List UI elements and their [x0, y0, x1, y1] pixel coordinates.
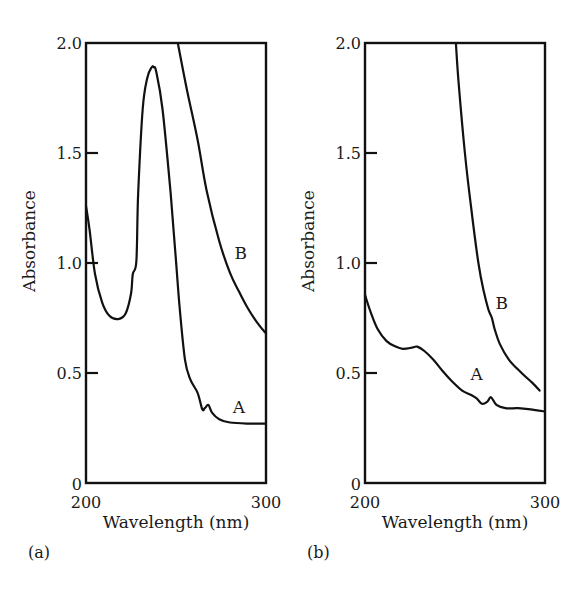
panel-label: (a) — [28, 543, 50, 562]
panel-b: 00.51.01.52.0200300Wavelength (nm)Absorb… — [298, 34, 560, 562]
curve-a — [365, 295, 545, 412]
y-tick-label: 1.0 — [336, 254, 361, 273]
chart-canvas: 00.51.01.52.0200300Wavelength (nm)Absorb… — [0, 0, 588, 601]
panel-label: (b) — [307, 543, 330, 562]
y-tick-label: 0 — [351, 475, 361, 494]
plot-frame — [365, 43, 545, 483]
x-tick-label: 200 — [71, 493, 102, 512]
x-axis-label: Wavelength (nm) — [103, 512, 250, 532]
y-tick-label: 2.0 — [336, 34, 361, 53]
panel-a: 00.51.01.52.0200300Wavelength (nm)Absorb… — [19, 34, 281, 562]
y-axis-label: Absorbance — [298, 190, 318, 293]
curve-label-b: B — [235, 243, 248, 263]
curve-label-a: A — [232, 397, 246, 417]
curve-b — [456, 43, 540, 391]
x-tick-label: 300 — [530, 493, 561, 512]
y-tick-label: 2.0 — [57, 34, 82, 53]
y-tick-label: 0 — [72, 475, 82, 494]
y-tick-label: 1.5 — [57, 144, 82, 163]
curve-b — [178, 43, 266, 333]
x-tick-label: 200 — [350, 493, 381, 512]
absorbance-figure: 00.51.01.52.0200300Wavelength (nm)Absorb… — [0, 0, 588, 601]
y-tick-label: 1.5 — [336, 144, 361, 163]
y-tick-label: 0.5 — [336, 364, 361, 383]
y-tick-label: 1.0 — [57, 254, 82, 273]
y-axis-label: Absorbance — [19, 190, 39, 293]
x-tick-label: 300 — [251, 493, 282, 512]
curve-label-b: B — [496, 293, 509, 313]
curve-label-a: A — [469, 364, 483, 384]
y-tick-label: 0.5 — [57, 364, 82, 383]
x-axis-label: Wavelength (nm) — [382, 512, 529, 532]
